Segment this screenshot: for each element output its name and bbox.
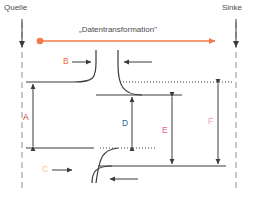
sink-label: Sinke (222, 4, 242, 12)
transformation-title: „Datentransformation" (79, 26, 157, 34)
segment-label-f: F (208, 117, 213, 126)
segment-label-e: E (162, 126, 168, 135)
segment-label-a: A (23, 113, 29, 122)
data-transformation-diagram: Quelle Sinke „Datentransformation" A B C… (0, 0, 256, 198)
segment-label-c: C (42, 165, 48, 174)
bottom-transition-curve (92, 166, 112, 183)
segment-label-d: D (122, 119, 128, 128)
upper-transition-curve-b (74, 50, 96, 82)
segment-label-b: B (63, 57, 69, 66)
source-label: Quelle (4, 4, 27, 12)
transformation-flow-arrow (37, 38, 215, 45)
middle-transition-curve (118, 50, 142, 95)
